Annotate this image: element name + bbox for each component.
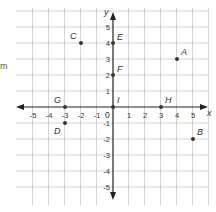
point-label-h: H [165,95,172,105]
y-tick-label: -2 [103,135,110,144]
y-tick-label: 5 [106,23,110,32]
x-tick-label: -3 [62,111,69,120]
point-f [111,73,115,77]
x-tick-label: 3 [159,111,163,120]
coordinate-plane: xy0-5-4-3-2-11234554321-1-2-3-4-5 ABCDEF… [0,0,216,212]
point-label-f: F [117,64,123,74]
x-tick-label: 5 [191,111,195,120]
y-axis-label: y [103,7,109,17]
point-label-c: C [70,31,77,41]
y-tick-label: 2 [106,71,110,80]
y-tick-label: 4 [106,39,110,48]
y-tick-label: 1 [106,87,110,96]
point-label-e: E [117,32,124,42]
point-label-g: G [54,95,61,105]
y-tick-label: -3 [103,151,110,160]
x-tick-label: 4 [175,111,179,120]
point-a [175,57,179,61]
point-d [63,121,67,125]
point-label-b: B [197,127,203,137]
x-tick-label: -5 [30,111,37,120]
x-tick-label: 1 [127,111,131,120]
point-c [79,41,83,45]
x-tick-label: 2 [143,111,147,120]
x-axis-left-arrow-icon [16,104,24,110]
y-tick-label: -1 [103,119,110,128]
point-label-i: I [117,95,120,105]
y-tick-label: 3 [106,55,110,64]
point-e [111,41,115,45]
point-b [191,137,195,141]
point-label-d: D [54,126,61,136]
point-g [63,105,67,109]
point-h [159,105,163,109]
y-axis-up-arrow-icon [110,12,116,20]
x-tick-label: -2 [78,111,85,120]
point-label-a: A [180,47,187,57]
x-tick-label: -4 [46,111,53,120]
x-tick-label: -1 [94,111,101,120]
y-tick-label: -4 [103,167,110,176]
x-axis-label: x [206,108,212,118]
y-tick-label: -5 [103,183,110,192]
point-i [111,105,115,109]
y-axis-down-arrow-icon [110,192,116,200]
